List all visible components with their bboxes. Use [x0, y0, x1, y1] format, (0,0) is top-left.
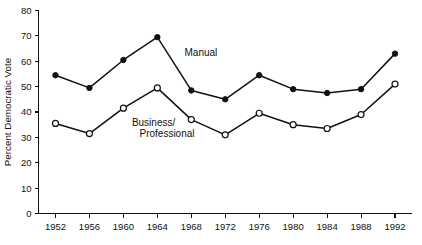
data-point-manual[interactable] [121, 57, 126, 62]
x-axis-tick-label: 1976 [249, 221, 270, 232]
data-point-manual[interactable] [392, 51, 397, 56]
x-axis-tick-label: 1984 [317, 221, 338, 232]
series-annotation-0: Manual [185, 47, 218, 58]
y-axis-tick-label: 80 [21, 5, 32, 16]
data-point-manual[interactable] [223, 97, 228, 102]
y-axis-tick-label: 60 [21, 56, 32, 67]
y-axis-tick-label: 30 [21, 132, 32, 143]
data-point-business-professional[interactable] [358, 112, 364, 118]
data-point-business-professional[interactable] [290, 122, 296, 128]
x-axis-tick-label: 1960 [113, 221, 134, 232]
x-axis-tick-label: 1956 [79, 221, 100, 232]
x-axis-tick-label: 1972 [215, 221, 236, 232]
data-point-business-professional[interactable] [392, 81, 398, 87]
data-point-business-professional[interactable] [86, 131, 92, 137]
series-line-manual [55, 37, 395, 99]
x-axis-tick-label: 1988 [350, 221, 371, 232]
y-axis-tick-label: 40 [21, 106, 32, 117]
line-chart: 0102030405060708019521956196019641968197… [0, 0, 422, 245]
data-point-manual[interactable] [87, 85, 92, 90]
data-point-manual[interactable] [290, 86, 295, 91]
series-annotation-2: Professional [140, 128, 195, 139]
data-point-manual[interactable] [358, 86, 363, 91]
x-axis-tick-label: 1952 [45, 221, 66, 232]
data-point-manual[interactable] [324, 90, 329, 95]
data-point-manual[interactable] [189, 88, 194, 93]
y-axis-tick-label: 0 [26, 208, 31, 219]
y-axis-tick-label: 20 [21, 157, 32, 168]
data-point-business-professional[interactable] [154, 85, 160, 91]
x-axis-tick-label: 1964 [147, 221, 168, 232]
x-axis-tick-label: 1992 [384, 221, 405, 232]
y-axis-tick-label: 50 [21, 81, 32, 92]
data-point-business-professional[interactable] [222, 132, 228, 138]
x-axis-tick-label: 1980 [283, 221, 304, 232]
data-point-manual[interactable] [155, 34, 160, 39]
data-point-business-professional[interactable] [256, 110, 262, 116]
data-point-manual[interactable] [53, 73, 58, 78]
data-point-business-professional[interactable] [52, 120, 58, 126]
x-axis-tick-label: 1968 [181, 221, 202, 232]
y-axis-title: Percent Democratic Vote [2, 57, 13, 166]
data-point-business-professional[interactable] [324, 125, 330, 131]
y-axis-tick-label: 10 [21, 183, 32, 194]
data-point-business-professional[interactable] [188, 117, 194, 123]
data-point-manual[interactable] [257, 73, 262, 78]
data-point-business-professional[interactable] [120, 105, 126, 111]
chart-container: 0102030405060708019521956196019641968197… [0, 0, 422, 245]
y-axis-tick-label: 70 [21, 30, 32, 41]
series-annotation-1: Business/ [132, 117, 176, 128]
